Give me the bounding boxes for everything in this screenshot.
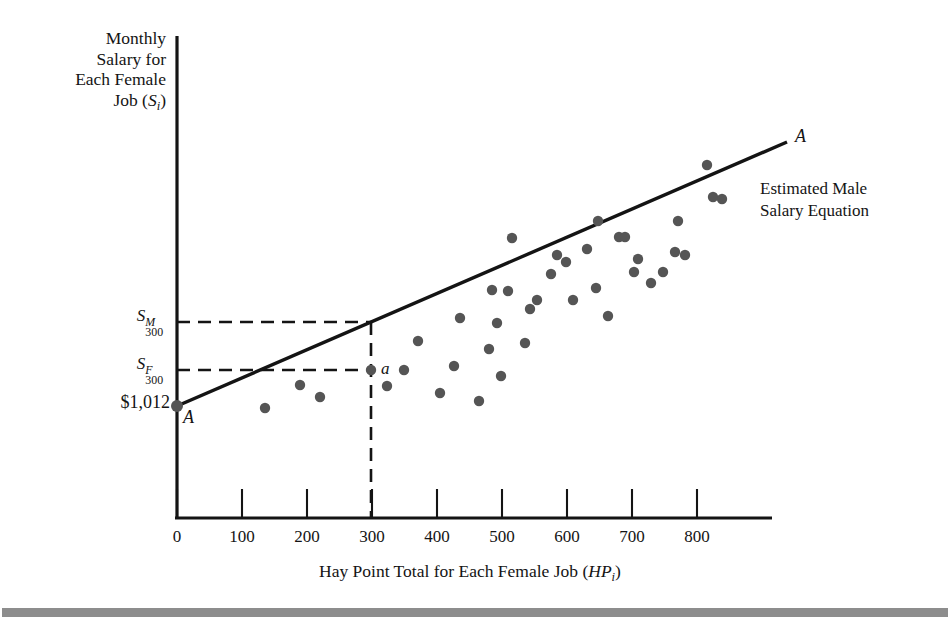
- y-axis-label-s-male-300: SM300: [86, 306, 170, 326]
- regression-line-label-top: A: [795, 126, 806, 147]
- data-point: [552, 250, 562, 260]
- data-point: [382, 381, 392, 391]
- regression-line-label-bottom: A: [183, 407, 194, 428]
- data-point: [658, 267, 668, 277]
- data-point: [474, 396, 484, 406]
- x-tick-label-800: 800: [667, 527, 727, 547]
- point-a-marker: [366, 365, 376, 375]
- data-point: [496, 371, 506, 381]
- point-a-label: a: [381, 359, 390, 379]
- x-tick-label-500: 500: [472, 527, 532, 547]
- data-point: [593, 216, 603, 226]
- data-point: [680, 250, 690, 260]
- data-point: [503, 286, 513, 296]
- figure-container: MonthlySalary forEach FemaleJob (Si) SM3…: [0, 0, 950, 623]
- data-point: [582, 244, 592, 254]
- data-point: [568, 295, 578, 305]
- x-axis-title-text: Hay Point Total for Each Female Job (: [319, 561, 588, 581]
- data-point: [620, 232, 630, 242]
- data-point: [520, 338, 530, 348]
- data-point: [413, 336, 423, 346]
- data-point: [633, 254, 643, 264]
- data-point: [449, 361, 459, 371]
- x-axis-title: Hay Point Total for Each Female Job (HPi…: [190, 561, 750, 585]
- data-point: [670, 247, 680, 257]
- data-point: [532, 295, 542, 305]
- legend-note-line-1: Estimated Male: [760, 179, 867, 198]
- data-point: [260, 403, 270, 413]
- x-tick-label-200: 200: [277, 527, 337, 547]
- data-point: [708, 192, 718, 202]
- x-tick-label-400: 400: [407, 527, 467, 547]
- data-point: [629, 267, 639, 277]
- legend-note: Estimated MaleSalary Equation: [760, 178, 869, 222]
- data-point: [525, 304, 535, 314]
- y-axis-title-line-1: Monthly: [106, 28, 166, 48]
- x-tick-label-100: 100: [212, 527, 272, 547]
- x-tick-label-300: 300: [342, 527, 402, 547]
- data-point: [717, 194, 727, 204]
- bottom-divider-rule: [2, 608, 948, 617]
- data-point: [591, 283, 601, 293]
- y-axis-title-line-3: Each Female: [75, 69, 166, 89]
- regression-line: [177, 142, 787, 406]
- data-point: [484, 344, 494, 354]
- data-point: [646, 278, 656, 288]
- y-axis-title-line-4: Job (Si): [113, 90, 166, 110]
- point-intercept-marker: [171, 400, 183, 412]
- x-tick-label-600: 600: [537, 527, 597, 547]
- data-point: [673, 216, 683, 226]
- y-axis-label-intercept: $1,012: [78, 392, 170, 413]
- data-point: [435, 388, 445, 398]
- data-point: [546, 269, 556, 279]
- y-axis-label-s-female-300: SF300: [86, 354, 170, 374]
- y-axis-title-line-2: Salary for: [97, 49, 167, 69]
- data-point: [315, 392, 325, 402]
- x-tick-label-700: 700: [602, 527, 662, 547]
- data-point: [603, 311, 613, 321]
- x-tick-label-0: 0: [147, 527, 207, 547]
- legend-note-line-2: Salary Equation: [760, 201, 869, 220]
- reference-lines: [177, 322, 371, 518]
- x-axis-title-suffix: ): [615, 561, 621, 581]
- data-point: [399, 365, 409, 375]
- x-axis-title-variable: HP: [588, 561, 611, 581]
- y-axis-title: MonthlySalary forEach FemaleJob (Si): [56, 28, 166, 114]
- data-point: [295, 380, 305, 390]
- x-axis-ticks: [177, 489, 697, 518]
- data-point: [487, 285, 497, 295]
- data-point: [561, 257, 571, 267]
- data-point: [492, 318, 502, 328]
- data-point: [507, 233, 517, 243]
- data-point: [455, 313, 465, 323]
- data-point: [702, 160, 712, 170]
